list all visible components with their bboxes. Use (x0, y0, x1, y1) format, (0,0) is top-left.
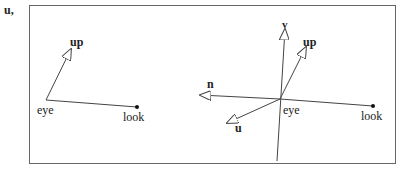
left-look-label: look (123, 110, 144, 124)
n-label: n (207, 77, 214, 91)
n-vector (200, 95, 280, 99)
left-up-label: up (70, 35, 84, 49)
u-label: u (235, 121, 242, 135)
camera-diagram: up eye look v up n u eye look (0, 0, 399, 177)
up-vector (46, 49, 71, 100)
u-vector (227, 99, 280, 123)
eye-look-line (46, 100, 137, 107)
left-diagram: up eye look (37, 35, 144, 124)
v-vector (277, 29, 285, 161)
right-look-label: look (361, 109, 382, 123)
right-eye-label: eye (283, 103, 300, 117)
v-label: v (282, 18, 288, 30)
look-point-icon (371, 104, 375, 108)
right-up-label: up (303, 35, 317, 49)
left-eye-label: eye (37, 103, 54, 117)
right-diagram: v up n u eye look (200, 18, 382, 161)
look-point-icon (135, 105, 139, 109)
